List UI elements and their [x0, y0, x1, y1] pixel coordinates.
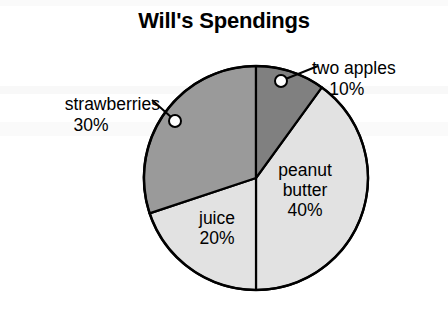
- pie-chart-graphic: [0, 0, 448, 314]
- slice-label-strawberries: strawberries 30%: [28, 94, 160, 136]
- slice-label-two-apples-name: two apples: [312, 58, 396, 78]
- slice-label-juice-name: juice: [182, 208, 252, 228]
- slice-label-two-apples-percent: 10%: [312, 79, 396, 100]
- slice-label-peanut-butter: peanut butter 40%: [262, 160, 348, 220]
- slice-label-peanut-butter-line2: butter: [262, 180, 348, 200]
- marker-dot-two-apples: [275, 75, 287, 87]
- slice-label-two-apples: two apples 10%: [312, 58, 396, 100]
- slice-label-peanut-butter-line1: peanut: [262, 160, 348, 180]
- slice-label-peanut-butter-percent: 40%: [262, 200, 348, 220]
- slice-label-juice: juice 20%: [182, 208, 252, 248]
- marker-dot-strawberries: [169, 115, 181, 127]
- slice-label-juice-percent: 20%: [182, 228, 252, 248]
- slice-label-strawberries-percent: 30%: [28, 115, 160, 136]
- slice-label-strawberries-name: strawberries: [65, 94, 160, 114]
- pie-chart-figure: Will's Spendings two apples 10% strawber…: [0, 0, 448, 314]
